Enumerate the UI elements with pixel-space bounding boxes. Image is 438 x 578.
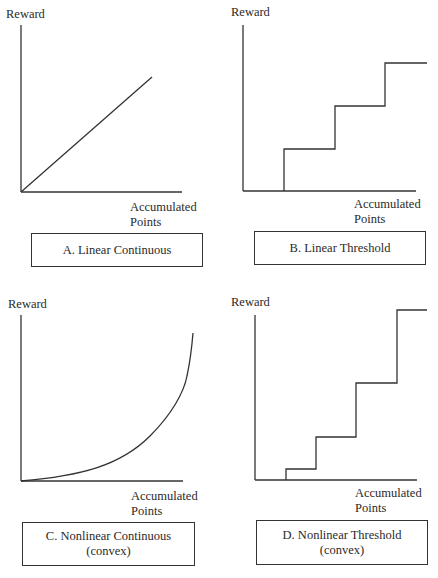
panel-a-caption-box: A. Linear Continuous — [31, 233, 203, 267]
panel-a-linear-line — [21, 77, 152, 192]
panel-a-caption: A. Linear Continuous — [63, 243, 172, 258]
panel-d-caption: D. Nonlinear Threshold — [283, 528, 402, 543]
panel-c-x-label: Accumulated Points — [131, 489, 198, 518]
panel-a-x-label-line1: Accumulated — [130, 200, 197, 215]
panel-d-x-label: Accumulated Points — [355, 486, 422, 515]
panel-c-y-label: Reward — [8, 297, 47, 311]
panel-b-y-label: Reward — [231, 5, 270, 19]
panel-d-caption-sub: (convex) — [320, 543, 364, 558]
panel-a-plot — [21, 25, 182, 192]
panel-c-plot — [21, 315, 193, 481]
panel-b-caption: B. Linear Threshold — [290, 241, 391, 256]
panel-d-plot — [255, 310, 427, 480]
panel-a-x-label: Accumulated Points — [130, 200, 197, 229]
panel-d-caption-box: D. Nonlinear Threshold (convex) — [256, 520, 428, 565]
panel-b-x-label: Accumulated Points — [354, 197, 421, 226]
panel-d-step-line — [286, 310, 427, 480]
panel-c-x-label-line2: Points — [131, 504, 198, 519]
panel-b-x-label-line2: Points — [354, 212, 421, 227]
panel-c-caption: C. Nonlinear Continuous — [46, 529, 171, 544]
panel-c-caption-box: C. Nonlinear Continuous (convex) — [22, 522, 195, 566]
panel-a-y-label: Reward — [6, 7, 45, 21]
panel-d-x-label-line2: Points — [355, 501, 422, 516]
panel-c-x-label-line1: Accumulated — [131, 489, 198, 504]
panel-c-caption-sub: (convex) — [86, 544, 130, 559]
panel-d-x-label-line1: Accumulated — [355, 486, 422, 501]
panel-b-x-label-line1: Accumulated — [354, 197, 421, 212]
panel-c-convex-curve — [21, 333, 193, 481]
panel-b-caption-box: B. Linear Threshold — [254, 231, 426, 265]
panel-b-step-line — [284, 63, 427, 191]
panel-a-x-label-line2: Points — [130, 215, 197, 230]
panel-d-y-label: Reward — [231, 295, 270, 309]
panel-b-plot — [243, 25, 427, 191]
